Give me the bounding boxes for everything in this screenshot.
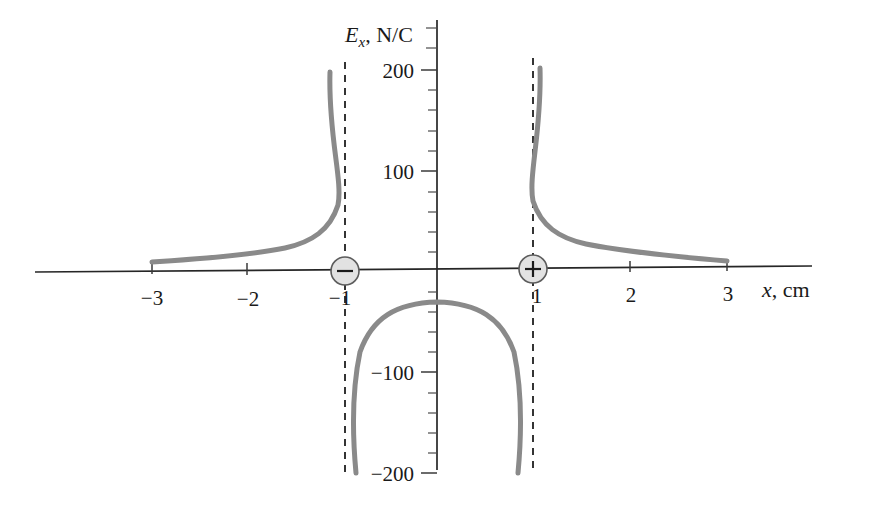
x-tick-label-2: 2 [626, 283, 637, 307]
electric-field-dipole-chart: 200 100 −100 −200 −3 −2 −1 1 2 3 Ex, N/C… [0, 0, 874, 509]
y-axis-title-symbol: E [344, 22, 359, 47]
x-axis-title-unit: , cm [772, 277, 810, 302]
y-tick-label-100: 100 [383, 160, 415, 184]
x-axis-title: x, cm [761, 277, 810, 302]
x-tick-label-1: 1 [532, 284, 543, 308]
x-tick-label-neg2: −2 [237, 287, 259, 311]
x-axis-title-symbol: x [761, 277, 772, 302]
negative-charge-marker [331, 257, 359, 285]
y-axis-title-unit: , N/C [365, 22, 413, 47]
curve-left-branch [152, 72, 339, 262]
positive-charge-marker [519, 255, 547, 283]
y-axis-title: Ex, N/C [344, 22, 413, 50]
y-tick-label-200: 200 [383, 59, 415, 83]
x-tick-label-3: 3 [723, 282, 734, 306]
x-tick-label-neg1: −1 [329, 286, 351, 310]
plot-area: 200 100 −100 −200 −3 −2 −1 1 2 3 Ex, N/C… [0, 0, 874, 509]
curve-right-branch [532, 68, 727, 261]
y-tick-label-neg200: −200 [371, 462, 414, 486]
x-tick-label-neg3: −3 [141, 286, 163, 310]
y-tick-label-neg100: −100 [371, 361, 414, 385]
y-axis-minor-ticks [426, 28, 437, 453]
axes-group [35, 20, 812, 470]
